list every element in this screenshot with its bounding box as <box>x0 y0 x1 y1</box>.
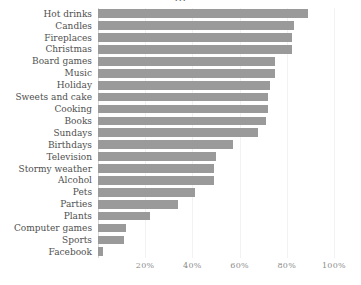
bar <box>98 33 292 42</box>
category-label: Candles <box>0 21 92 31</box>
bar <box>98 152 216 161</box>
x-tick-label: 60% <box>220 261 260 270</box>
category-label: Sports <box>0 235 92 245</box>
category-label: Plants <box>0 211 92 221</box>
bar-row <box>98 56 334 68</box>
category-label: Computer games <box>0 223 92 233</box>
bar-row <box>98 163 334 175</box>
x-tick-label: 20% <box>125 261 165 270</box>
bar-row <box>98 103 334 115</box>
bar <box>98 176 214 185</box>
category-label: Pets <box>0 187 92 197</box>
plot-area <box>98 8 334 258</box>
bar-row <box>98 151 334 163</box>
x-tick-label: 100% <box>314 261 354 270</box>
bar <box>98 93 268 102</box>
bar <box>98 164 214 173</box>
bar <box>98 21 294 30</box>
category-label: Sweets and cake <box>0 92 92 102</box>
category-label: Birthdays <box>0 140 92 150</box>
bar-row <box>98 8 334 20</box>
category-label: Facebook <box>0 247 92 257</box>
bar-row <box>98 198 334 210</box>
bar <box>98 247 103 256</box>
bar-row <box>98 246 334 258</box>
x-tick-label: 80% <box>267 261 307 270</box>
x-tick-label: 40% <box>172 261 212 270</box>
bar <box>98 212 150 221</box>
category-label: Fireplaces <box>0 33 92 43</box>
category-label: Hot drinks <box>0 9 92 19</box>
bar <box>98 105 268 114</box>
bar-row <box>98 44 334 56</box>
bar <box>98 57 275 66</box>
category-label: Holiday <box>0 80 92 90</box>
bar-row <box>98 127 334 139</box>
bar <box>98 69 275 78</box>
bar-row <box>98 210 334 222</box>
bar-row <box>98 68 334 80</box>
bar <box>98 200 178 209</box>
bar-row <box>98 175 334 187</box>
bar <box>98 81 270 90</box>
bar-rows <box>98 8 334 258</box>
bar <box>98 45 292 54</box>
category-axis-labels: Hot drinksCandlesFireplacesChristmasBoar… <box>0 8 92 258</box>
category-label: Christmas <box>0 44 92 54</box>
chart-title: ... <box>0 0 361 3</box>
bar-chart: ... Hot drinksCandlesFireplacesChristmas… <box>0 0 361 285</box>
bar-row <box>98 139 334 151</box>
bar-row <box>98 234 334 246</box>
category-label: Board games <box>0 56 92 66</box>
value-axis-labels: 20%40%60%80%100% <box>0 261 361 275</box>
category-label: Alcohol <box>0 175 92 185</box>
bar-row <box>98 222 334 234</box>
category-label: Cooking <box>0 104 92 114</box>
category-label: Books <box>0 116 92 126</box>
bar-row <box>98 20 334 32</box>
bar <box>98 188 195 197</box>
category-label: Parties <box>0 199 92 209</box>
category-label: Music <box>0 68 92 78</box>
category-label: Stormy weather <box>0 164 92 174</box>
bar <box>98 224 126 233</box>
category-label: Television <box>0 152 92 162</box>
bar-row <box>98 32 334 44</box>
bar <box>98 117 266 126</box>
bar-row <box>98 79 334 91</box>
bar <box>98 140 233 149</box>
bar <box>98 128 258 137</box>
bar-row <box>98 115 334 127</box>
bar <box>98 9 308 18</box>
category-label: Sundays <box>0 128 92 138</box>
gridline-100pct <box>334 8 335 258</box>
bar-row <box>98 91 334 103</box>
bar-row <box>98 187 334 199</box>
bar <box>98 236 124 245</box>
